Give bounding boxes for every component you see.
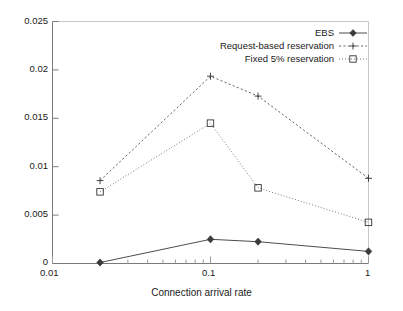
series-fixed-5-percent-reservation [97, 120, 372, 226]
series-request-based-reservation [97, 73, 372, 184]
legend-item-request-based-reservation: Request-based reservation [150, 41, 334, 51]
x-axis-title: Connection arrival rate [0, 288, 403, 298]
chart-figure: 0 0.005 0.01 0.015 0.02 0.025 0.01 0.1 1… [0, 0, 403, 311]
y-tick-label-001: 0.01 [2, 161, 48, 171]
legend-samples [339, 30, 367, 63]
legend-item-fixed-5-percent-reservation: Fixed 5% reservation [150, 54, 334, 64]
x-tick-label-1: 1 [365, 268, 395, 278]
y-tick-label-0025: 0.025 [2, 16, 48, 26]
y-tick-label-002: 0.02 [2, 64, 48, 74]
y-axis-ticks [53, 22, 59, 264]
x-tick-label-01: 0.1 [202, 268, 242, 278]
x-tick-label-001: 0.01 [40, 268, 80, 278]
y-tick-label-0: 0 [2, 257, 48, 267]
legend-item-ebs: EBS [150, 28, 334, 38]
y-tick-label-0005: 0.005 [2, 209, 48, 219]
series-ebs [97, 236, 372, 266]
y-tick-label-0015: 0.015 [2, 112, 48, 122]
